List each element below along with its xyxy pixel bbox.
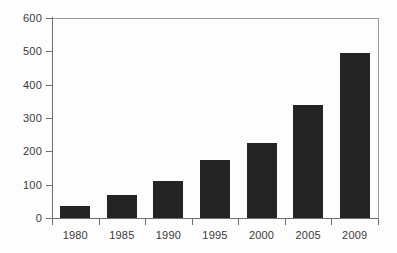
bar <box>107 195 137 218</box>
x-axis-tick <box>52 219 53 225</box>
bar <box>60 206 90 218</box>
x-axis-tick-label: 2005 <box>285 229 331 241</box>
y-axis-tick-label: 500 <box>2 46 42 57</box>
y-axis-tick-label: 400 <box>2 80 42 91</box>
y-axis-tick-label: 200 <box>2 146 42 157</box>
x-axis-line <box>52 218 379 219</box>
y-axis-tick-label: 300 <box>2 113 42 124</box>
x-axis-tick-label: 1995 <box>192 229 238 241</box>
x-axis-tick <box>145 219 146 225</box>
x-axis-tick <box>378 219 379 225</box>
x-axis-tick <box>99 219 100 225</box>
bar-series <box>52 18 378 218</box>
bar <box>153 181 183 218</box>
bar <box>293 105 323 218</box>
x-axis-tick-label: 1985 <box>99 229 145 241</box>
bar <box>247 143 277 218</box>
bar <box>200 160 230 218</box>
y-axis-tick-label: 600 <box>2 13 42 24</box>
x-axis-tick <box>285 219 286 225</box>
x-axis-tick <box>192 219 193 225</box>
bar <box>340 53 370 218</box>
x-axis-tick-label: 1990 <box>145 229 191 241</box>
y-axis-tick-label: 0 <box>2 213 42 224</box>
x-axis-tick-label: 1980 <box>52 229 98 241</box>
x-axis-tick <box>238 219 239 225</box>
x-axis-tick <box>331 219 332 225</box>
plot-frame-right-rule <box>378 18 379 219</box>
x-axis-tick-label: 2009 <box>332 229 378 241</box>
bar-chart-figure: 0100200300400500600 19801985199019952000… <box>0 0 397 253</box>
x-axis-tick-label: 2000 <box>239 229 285 241</box>
y-axis-tick-label: 100 <box>2 180 42 191</box>
